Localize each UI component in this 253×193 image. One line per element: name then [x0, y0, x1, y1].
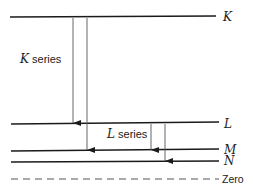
level-k-label: K — [222, 10, 233, 24]
level-m-line — [11, 149, 219, 151]
level-n-line — [11, 161, 219, 162]
level-l-line — [11, 122, 219, 124]
k-series-label: K series — [19, 52, 62, 66]
level-l-label: L — [223, 117, 232, 131]
level-k-line — [10, 16, 216, 17]
level-n-label: N — [223, 154, 235, 168]
energy-level-diagram: K L M N Zero K series L series — [0, 0, 253, 193]
l-series-label: L series — [106, 127, 148, 141]
level-zero-label: Zero — [222, 173, 244, 185]
